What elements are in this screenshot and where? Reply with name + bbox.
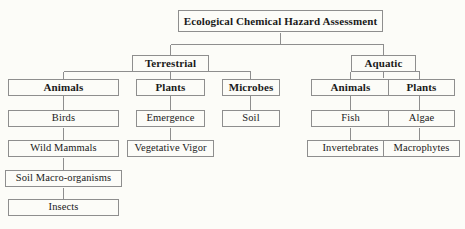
node-emergence[interactable]: Emergence <box>136 110 205 127</box>
node-macrophytes[interactable]: Macrophytes <box>383 140 460 157</box>
node-aquatic-plants[interactable]: Plants <box>388 79 455 96</box>
node-vegetative-vigor[interactable]: Vegetative Vigor <box>127 140 214 157</box>
node-aquatic-animals[interactable]: Animals <box>311 79 390 96</box>
node-terrestrial-animals[interactable]: Animals <box>8 79 119 96</box>
node-birds[interactable]: Birds <box>8 110 119 127</box>
node-soil-macro-organisms[interactable]: Soil Macro-organisms <box>5 170 122 187</box>
node-soil[interactable]: Soil <box>222 110 280 127</box>
node-insects[interactable]: Insects <box>8 199 119 216</box>
node-terrestrial-plants[interactable]: Plants <box>136 79 205 96</box>
node-terrestrial-microbes[interactable]: Microbes <box>222 79 280 96</box>
node-wild-mammals[interactable]: Wild Mammals <box>8 140 119 157</box>
node-root[interactable]: Ecological Chemical Hazard Assessment <box>178 10 383 32</box>
diagram-canvas: Ecological Chemical Hazard Assessment Te… <box>0 0 465 229</box>
node-aquatic[interactable]: Aquatic <box>351 55 416 72</box>
node-fish[interactable]: Fish <box>311 110 390 127</box>
node-algae[interactable]: Algae <box>388 110 455 127</box>
node-invertebrates[interactable]: Invertebrates <box>307 140 394 157</box>
node-terrestrial[interactable]: Terrestrial <box>132 55 209 72</box>
